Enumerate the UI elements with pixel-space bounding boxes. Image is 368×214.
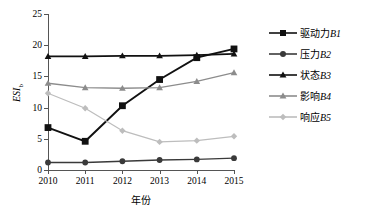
y-tick-label: 15 <box>33 71 43 81</box>
x-tick <box>234 170 235 174</box>
data-point <box>119 127 125 133</box>
x-tick <box>160 170 161 174</box>
data-point <box>280 51 286 57</box>
legend-item-b1[interactable]: 驱动力B1 <box>268 22 368 43</box>
data-point <box>120 158 126 164</box>
series-line <box>48 49 234 141</box>
x-axis-title: 年份 <box>48 192 234 207</box>
legend-marker-icon <box>268 27 298 39</box>
data-point <box>45 124 52 131</box>
line-chart: ESIb 0510152025 201020112012201320142015… <box>0 0 368 214</box>
data-point <box>82 160 88 166</box>
legend-label: 响应B5 <box>300 109 331 124</box>
legend-marker-icon <box>268 48 298 60</box>
data-point <box>194 156 200 162</box>
x-tick <box>85 170 86 174</box>
data-point <box>194 137 200 143</box>
series-layer <box>48 14 234 170</box>
x-tick-label: 2015 <box>225 176 244 186</box>
legend-label: 状态B3 <box>300 67 331 82</box>
x-tick-label: 2011 <box>76 176 95 186</box>
series-line <box>48 158 234 162</box>
data-point <box>157 157 163 163</box>
legend-marker-icon <box>268 111 298 123</box>
y-axis-title-subscript: b <box>17 84 25 88</box>
x-tick <box>122 170 123 174</box>
data-point <box>82 105 88 111</box>
data-point <box>156 139 162 145</box>
y-tick-label: 20 <box>33 40 43 50</box>
data-point <box>45 90 51 96</box>
data-point <box>45 80 52 86</box>
plot-area: 0510152025 201020112012201320142015 <box>48 14 234 170</box>
legend-label: 驱动力B1 <box>300 25 341 40</box>
x-axis-line <box>48 170 234 171</box>
x-tick-label: 2013 <box>150 176 169 186</box>
y-axis-title: ESIb <box>11 63 25 123</box>
legend: 驱动力B1压力B2状态B3影响B4响应B5 <box>268 22 368 127</box>
legend-marker-icon <box>268 69 298 81</box>
legend-marker-icon <box>268 90 298 102</box>
data-point <box>280 30 286 36</box>
x-tick <box>48 170 49 174</box>
data-point <box>156 76 163 83</box>
y-tick-label: 0 <box>37 165 42 175</box>
data-point <box>280 113 287 120</box>
y-tick-label: 5 <box>37 134 42 144</box>
data-point <box>231 69 238 75</box>
legend-item-b3[interactable]: 状态B3 <box>268 64 368 85</box>
data-point <box>231 155 237 161</box>
legend-label: 压力B2 <box>300 46 331 61</box>
legend-item-b2[interactable]: 压力B2 <box>268 43 368 64</box>
y-tick-label: 25 <box>33 9 43 19</box>
x-tick-label: 2014 <box>187 176 206 186</box>
x-tick-label: 2010 <box>39 176 58 186</box>
legend-label: 影响B4 <box>300 88 331 103</box>
series-b1 <box>45 46 238 145</box>
series-b3 <box>45 51 238 59</box>
series-b2 <box>45 155 237 165</box>
series-line <box>48 93 234 142</box>
legend-item-b4[interactable]: 影响B4 <box>268 85 368 106</box>
data-point <box>119 102 126 109</box>
data-point <box>231 133 237 139</box>
data-point <box>45 160 51 166</box>
legend-item-b5[interactable]: 响应B5 <box>268 106 368 127</box>
y-tick-label: 10 <box>33 103 43 113</box>
x-tick-label: 2012 <box>113 176 132 186</box>
series-line <box>48 73 234 89</box>
data-point <box>82 138 89 145</box>
y-axis-title-text: ESI <box>11 88 22 102</box>
series-b4 <box>45 69 238 90</box>
x-tick <box>197 170 198 174</box>
